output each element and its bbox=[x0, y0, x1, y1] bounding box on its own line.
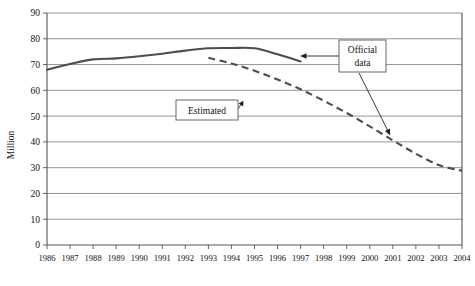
x-axis-tick-marks bbox=[47, 245, 462, 249]
x-tick-label: 1988 bbox=[85, 253, 102, 263]
x-tick-label: 2003 bbox=[430, 253, 447, 263]
x-tick-label: 1996 bbox=[269, 253, 287, 263]
annotation-official-data: Official data bbox=[300, 40, 390, 135]
x-tick-label: 1993 bbox=[200, 253, 217, 263]
x-tick-label: 1997 bbox=[292, 253, 310, 263]
official-data-arrow-2-shaft bbox=[359, 73, 389, 133]
y-axis-tick-labels: 0102030405060708090 bbox=[31, 8, 41, 250]
y-tick-label: 30 bbox=[31, 163, 41, 173]
line-chart: 0102030405060708090 19861987198819891990… bbox=[0, 0, 475, 286]
x-tick-label: 1987 bbox=[61, 253, 79, 263]
y-tick-label: 60 bbox=[31, 86, 41, 96]
official-data-label-line-1: Official bbox=[348, 45, 378, 55]
x-axis-tick-labels: 1986198719881989199019911992199319941995… bbox=[38, 253, 471, 263]
x-tick-label: 2004 bbox=[453, 253, 471, 263]
x-tick-label: 1998 bbox=[315, 253, 332, 263]
y-tick-label: 10 bbox=[31, 215, 41, 225]
official-data-label-line-2: data bbox=[355, 58, 372, 68]
y-tick-label: 80 bbox=[31, 34, 41, 44]
y-tick-label: 40 bbox=[31, 137, 41, 147]
chart-container: 0102030405060708090 19861987198819891990… bbox=[0, 0, 475, 286]
x-tick-label: 1989 bbox=[108, 253, 125, 263]
x-tick-label: 1986 bbox=[38, 253, 56, 263]
series-estimated-line bbox=[208, 58, 462, 171]
y-tick-label: 50 bbox=[31, 112, 41, 122]
estimated-label-text: Estimated bbox=[188, 106, 226, 116]
x-tick-label: 1990 bbox=[131, 253, 148, 263]
y-tick-label: 20 bbox=[31, 189, 41, 199]
series-official-data-line bbox=[47, 48, 301, 70]
y-axis-title: Million bbox=[6, 131, 16, 160]
x-tick-label: 1992 bbox=[177, 253, 194, 263]
x-tick-label: 2000 bbox=[361, 253, 378, 263]
x-tick-label: 1999 bbox=[338, 253, 355, 263]
y-tick-label: 0 bbox=[35, 240, 40, 250]
x-tick-label: 1991 bbox=[154, 253, 171, 263]
annotation-estimated: Estimated bbox=[176, 100, 243, 120]
y-tick-label: 70 bbox=[31, 60, 41, 70]
official-data-arrow-1-head bbox=[300, 53, 307, 59]
x-tick-label: 1994 bbox=[223, 253, 241, 263]
x-tick-label: 1995 bbox=[246, 253, 263, 263]
estimated-arrow-head bbox=[239, 101, 244, 107]
x-tick-label: 2002 bbox=[407, 253, 424, 263]
x-tick-label: 2001 bbox=[384, 253, 401, 263]
y-tick-label: 90 bbox=[31, 8, 41, 18]
